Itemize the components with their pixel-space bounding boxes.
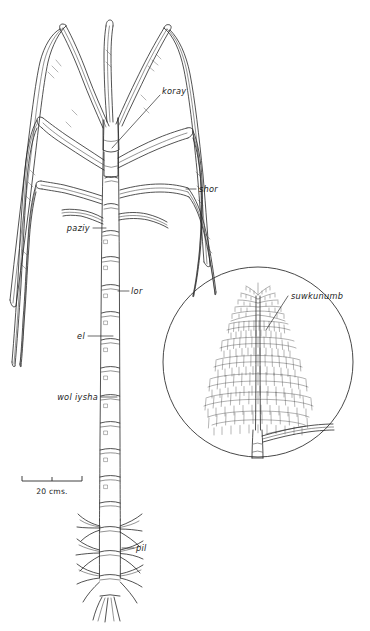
label-wol-iysha: wol iysha [57,392,98,402]
label-paziy: paziy [66,223,90,233]
label-layer: koray shor paziy lor el wol iysha pil su… [0,0,370,631]
label-suwkunumb: suwkunumb [291,291,343,301]
label-el: el [77,331,85,341]
label-koray: koray [162,86,186,96]
label-lor: lor [131,286,143,296]
label-shor: shor [199,184,218,194]
scale-bar-label: 20 cms. [36,487,67,496]
botanical-figure: koray shor paziy lor el wol iysha pil su… [0,0,370,631]
label-pil: pil [135,543,147,553]
